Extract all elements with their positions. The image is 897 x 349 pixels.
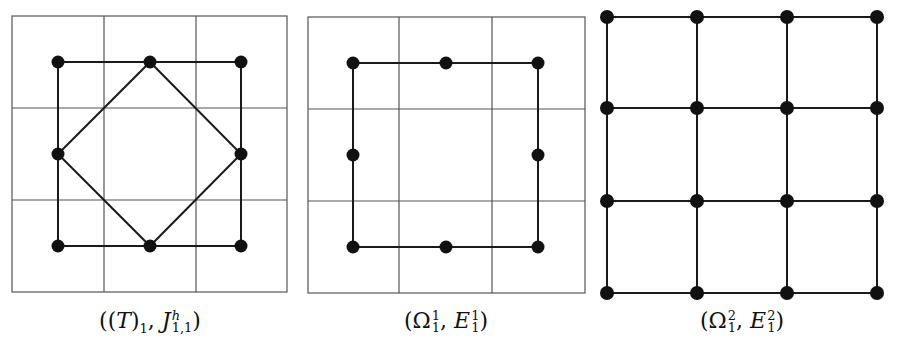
caption-subscript: 1 bbox=[432, 322, 440, 334]
caption-paren: ( bbox=[404, 308, 413, 333]
panel-2-diagram bbox=[308, 17, 585, 293]
caption-symbol-e: E bbox=[750, 308, 766, 333]
figure-canvas bbox=[0, 0, 897, 349]
caption-paren: ) bbox=[192, 308, 201, 333]
caption-supsub: h1,1 bbox=[172, 310, 193, 334]
caption-comma: , bbox=[736, 308, 750, 333]
caption-subscript: 1 bbox=[140, 321, 148, 336]
panel-2-caption: (Ω11, E11) bbox=[404, 308, 488, 334]
caption-symbol-e: E bbox=[454, 308, 470, 333]
caption-paren: ) bbox=[775, 308, 784, 333]
panel-1-nodes bbox=[52, 56, 248, 253]
caption-symbol-t: T bbox=[116, 308, 131, 333]
panel-1-caption: ((T)1, Jh1,1) bbox=[99, 308, 201, 336]
panel-1-diagram bbox=[12, 16, 287, 292]
panel-3-diagram bbox=[600, 10, 884, 300]
panel-3-nodes bbox=[600, 10, 884, 300]
caption-subscript: 1 bbox=[728, 322, 736, 334]
inner-diamond-edges bbox=[58, 62, 241, 246]
caption-paren: ) bbox=[479, 308, 488, 333]
caption-symbol-j: J bbox=[162, 308, 171, 333]
panel-3-edges bbox=[607, 17, 877, 293]
outer-square-edges bbox=[58, 62, 241, 246]
caption-subscript: 1,1 bbox=[172, 322, 193, 334]
panel-2-nodes bbox=[347, 57, 545, 254]
panel-3-caption: (Ω21, E21) bbox=[700, 308, 784, 334]
caption-paren: ( bbox=[700, 308, 709, 333]
caption-comma: , bbox=[440, 308, 454, 333]
caption-paren: (( bbox=[99, 308, 116, 333]
caption-symbol-omega: Ω bbox=[413, 308, 431, 333]
caption-supsub: 21 bbox=[728, 310, 736, 334]
panel-1-edges bbox=[58, 62, 241, 246]
caption-supsub: 11 bbox=[432, 310, 440, 334]
panel-2-edges bbox=[353, 63, 538, 247]
caption-comma: , bbox=[148, 308, 162, 333]
caption-symbol-omega: Ω bbox=[709, 308, 727, 333]
